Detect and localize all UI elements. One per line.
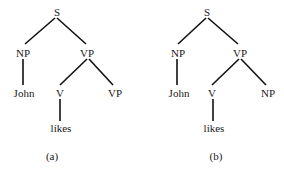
node-likes: likes bbox=[204, 122, 225, 134]
syntax-trees-figure: S NP VP John V VP likes (a) S NP VP John… bbox=[0, 0, 284, 174]
tree-a: S NP VP John V VP likes (a) bbox=[14, 6, 122, 163]
node-np: NP bbox=[16, 47, 30, 59]
node-v: V bbox=[208, 87, 216, 99]
edge-vp-v bbox=[212, 59, 239, 85]
edge-s-np bbox=[25, 18, 55, 44]
edge-vp-vp bbox=[89, 59, 113, 85]
caption-a: (a) bbox=[46, 150, 59, 163]
node-complement-vp: VP bbox=[108, 87, 122, 99]
node-vp: VP bbox=[233, 47, 247, 59]
edge-s-vp bbox=[57, 18, 86, 44]
edge-vp-np bbox=[241, 59, 266, 85]
node-s: S bbox=[54, 6, 60, 18]
node-john: John bbox=[169, 87, 190, 99]
node-np: NP bbox=[171, 47, 185, 59]
node-v: V bbox=[56, 87, 64, 99]
edge-vp-v bbox=[60, 59, 87, 85]
node-s: S bbox=[204, 6, 210, 18]
node-likes: likes bbox=[51, 122, 72, 134]
node-john: John bbox=[14, 87, 35, 99]
node-complement-np: NP bbox=[261, 87, 275, 99]
node-vp: VP bbox=[80, 47, 94, 59]
edge-s-vp bbox=[208, 18, 238, 44]
edge-s-np bbox=[178, 18, 206, 44]
tree-b: S NP VP John V NP likes (b) bbox=[169, 6, 275, 163]
caption-b: (b) bbox=[210, 150, 223, 163]
